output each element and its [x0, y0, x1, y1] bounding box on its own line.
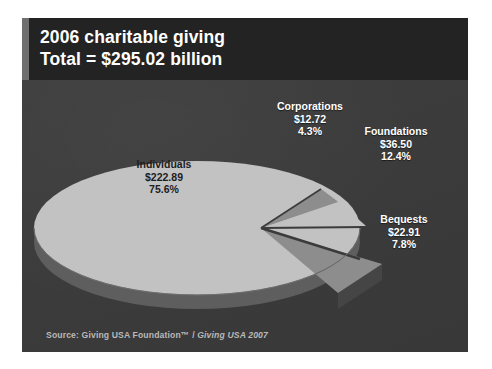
title-line-2: Total = $295.02 billion — [40, 48, 225, 70]
source-attribution: Source: Giving USA Foundation™ / Giving … — [46, 330, 268, 340]
source-prefix: Source: Giving USA Foundation™ / — [46, 330, 195, 340]
foundations-name: Foundations — [342, 125, 450, 138]
bequests-percent: 7.8% — [352, 238, 456, 251]
corporations-value: $12.72 — [258, 113, 362, 126]
slice-label-foundations: Foundations $36.50 12.4% — [342, 125, 450, 163]
individuals-percent: 75.6% — [106, 183, 222, 196]
bequests-name: Bequests — [352, 213, 456, 226]
foundations-percent: 12.4% — [342, 150, 450, 163]
individuals-name: Individuals — [106, 158, 222, 171]
slide-title-band: 2006 charitable giving Total = $295.02 b… — [22, 18, 468, 80]
source-publication: Giving USA 2007 — [197, 330, 268, 340]
individuals-value: $222.89 — [106, 171, 222, 184]
slide-panel: 2006 charitable giving Total = $295.02 b… — [22, 18, 468, 352]
title-line-1: 2006 charitable giving — [40, 26, 225, 48]
slice-label-bequests: Bequests $22.91 7.8% — [352, 213, 456, 251]
corporations-name: Corporations — [258, 100, 362, 113]
title-accent-strip — [22, 18, 29, 80]
page-title: 2006 charitable giving Total = $295.02 b… — [40, 26, 225, 70]
bequests-value: $22.91 — [352, 226, 456, 239]
foundations-value: $36.50 — [342, 138, 450, 151]
slice-label-individuals: Individuals $222.89 75.6% — [106, 158, 222, 196]
pie-chart-stage: Corporations $12.72 4.3% Foundations $36… — [22, 80, 468, 352]
